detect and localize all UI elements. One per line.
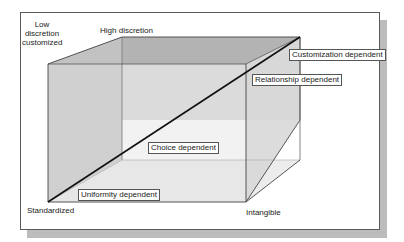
label-uniformity-dependent: Uniformity dependent [78, 189, 160, 201]
label-low-line1: Low [22, 20, 62, 29]
label-high-discretion: High discretion [100, 26, 153, 35]
label-low-discretion: Low discretion customized [22, 20, 62, 47]
label-intangible: Intangible [246, 208, 281, 217]
front-face [48, 64, 246, 202]
label-low-line3: customized [22, 38, 62, 47]
label-low-line2: discretion [22, 29, 62, 38]
label-standardized: Standardized [27, 206, 74, 215]
label-customization-dependent: Customization dependent [289, 49, 386, 61]
label-relationship-dependent: Relationship dependent [252, 74, 342, 86]
label-choice-dependent: Choice dependent [148, 142, 219, 154]
